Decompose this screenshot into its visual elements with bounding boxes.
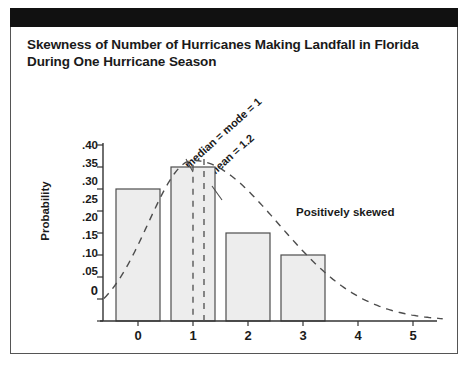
x-tick-label-1: 1 bbox=[178, 328, 208, 343]
y-tick-label-8: 0 bbox=[64, 285, 98, 296]
page-title: Skewness of Number of Hurricanes Making … bbox=[27, 36, 437, 70]
x-tick-label-3: 3 bbox=[288, 328, 318, 343]
y-axis-label: Probability bbox=[39, 161, 51, 261]
y-tick-label-4: .20 bbox=[64, 212, 98, 223]
x-tick-label-2: 2 bbox=[233, 328, 263, 343]
y-tick-label-5: .15 bbox=[64, 230, 98, 241]
y-tick-label-6: .10 bbox=[64, 248, 98, 259]
figure-page: Skewness of Number of Hurricanes Making … bbox=[0, 0, 468, 368]
x-tick-label-5: 5 bbox=[398, 328, 428, 343]
chart-title-line-2: During One Hurricane Season bbox=[27, 53, 437, 70]
annotation-positively-skewed: Positively skewed bbox=[296, 206, 394, 218]
y-tick-label-0: .40 bbox=[64, 140, 98, 151]
chart-title-line-1: Skewness of Number of Hurricanes Making … bbox=[27, 36, 437, 53]
y-tick-label-7: .05 bbox=[64, 266, 98, 277]
y-tick-label-2: .30 bbox=[64, 176, 98, 187]
y-tick-label-1: .35 bbox=[64, 158, 98, 169]
x-tick-label-0: 0 bbox=[123, 328, 153, 343]
figure-header-bar bbox=[10, 8, 458, 27]
x-tick-label-4: 4 bbox=[343, 328, 373, 343]
y-tick-label-3: .25 bbox=[64, 194, 98, 205]
